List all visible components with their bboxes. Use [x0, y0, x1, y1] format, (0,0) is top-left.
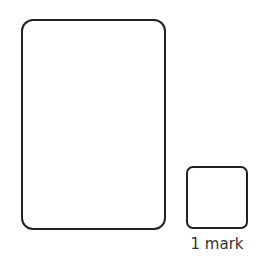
mark-label: 1 mark [180, 235, 254, 253]
large-answer-box [21, 19, 166, 230]
mark-box [186, 166, 248, 229]
